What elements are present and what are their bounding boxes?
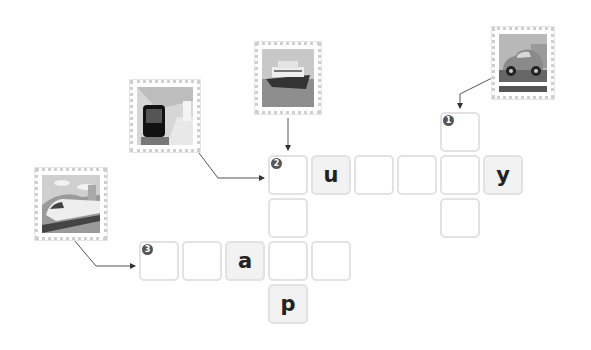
crossword-cell[interactable]: 1 bbox=[440, 112, 480, 152]
cell-letter: y bbox=[496, 163, 510, 187]
cell-letter: u bbox=[324, 163, 339, 187]
cell-letter: a bbox=[238, 249, 252, 273]
crossword-cell[interactable]: 2 bbox=[268, 155, 308, 195]
car-stamp bbox=[492, 27, 554, 99]
crossword-cell[interactable] bbox=[440, 155, 480, 195]
high-speed-train-icon bbox=[42, 175, 100, 233]
clue-number-badge: 1 bbox=[443, 115, 454, 126]
subway-stamp bbox=[130, 80, 200, 152]
crossword-cell[interactable] bbox=[311, 241, 351, 281]
clue-number-badge: 2 bbox=[271, 158, 282, 169]
crossword-cell[interactable] bbox=[268, 198, 308, 238]
crossword-cell[interactable]: p bbox=[268, 284, 308, 324]
ship-icon bbox=[262, 49, 314, 107]
cell-letter: p bbox=[280, 292, 295, 316]
clue-number-badge: 3 bbox=[142, 244, 153, 255]
train-stamp bbox=[35, 168, 107, 240]
crossword-cell[interactable] bbox=[182, 241, 222, 281]
crossword-cell[interactable] bbox=[268, 241, 308, 281]
crossword-cell[interactable] bbox=[397, 155, 437, 195]
subway-train-icon bbox=[137, 87, 193, 145]
crossword-cell[interactable] bbox=[354, 155, 394, 195]
crossword-cell[interactable] bbox=[440, 198, 480, 238]
crossword-cell[interactable]: a bbox=[225, 241, 265, 281]
crossword-cell[interactable]: 3 bbox=[139, 241, 179, 281]
car-icon bbox=[499, 34, 547, 92]
crossword-cell[interactable]: u bbox=[311, 155, 351, 195]
ship-stamp bbox=[255, 42, 321, 114]
crossword-cell[interactable]: y bbox=[483, 155, 523, 195]
